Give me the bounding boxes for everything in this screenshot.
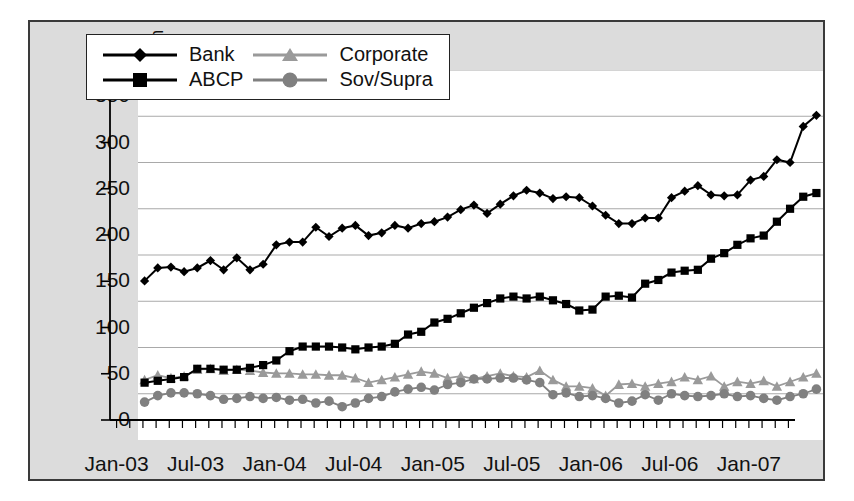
series-sov-supra <box>140 373 821 411</box>
data-point <box>667 268 675 276</box>
data-point <box>430 318 438 326</box>
y-tick-label: 250 <box>70 177 130 198</box>
data-point <box>193 365 201 373</box>
data-point <box>654 276 662 284</box>
data-point <box>562 300 570 308</box>
data-point <box>417 219 426 228</box>
data-point <box>562 192 571 201</box>
data-point <box>812 189 820 197</box>
data-point <box>285 347 293 355</box>
data-point <box>338 343 346 351</box>
data-point <box>443 212 452 221</box>
data-point <box>680 187 689 196</box>
x-tick-label: Jan-07 <box>699 452 799 476</box>
data-point <box>733 241 741 249</box>
legend-row: ABCP Sov/Supra <box>97 67 437 92</box>
data-point <box>667 389 677 399</box>
data-point <box>720 191 729 200</box>
data-point <box>561 388 571 398</box>
data-point <box>575 306 583 314</box>
chart-page: Outstandings USD million 050100150200250… <box>0 0 854 501</box>
data-point <box>193 263 202 272</box>
data-point <box>523 294 531 302</box>
x-axis-tick-labels: Jan-03Jul-03Jan-04Jul-04Jan-05Jul-05Jan-… <box>30 452 827 492</box>
data-point <box>759 376 769 386</box>
data-point <box>482 374 492 384</box>
data-point <box>324 396 334 406</box>
data-point <box>614 219 623 228</box>
data-point <box>443 380 453 390</box>
legend-label-bank: Bank <box>183 42 247 67</box>
data-point <box>430 385 440 395</box>
data-point <box>627 219 636 228</box>
data-point <box>180 267 189 276</box>
data-point <box>535 378 545 388</box>
data-point <box>588 391 598 401</box>
data-point <box>706 391 716 401</box>
data-point <box>325 342 333 350</box>
data-point <box>483 299 491 307</box>
data-point <box>311 398 321 408</box>
data-point <box>272 393 282 403</box>
data-point <box>654 395 664 405</box>
series-bank <box>140 111 821 286</box>
data-point <box>785 158 794 167</box>
data-point <box>456 205 465 214</box>
data-point <box>509 191 518 200</box>
data-point <box>180 373 188 381</box>
data-point <box>206 365 214 373</box>
data-point <box>351 398 361 408</box>
data-point <box>457 309 465 317</box>
data-point <box>641 280 649 288</box>
data-point <box>220 366 228 374</box>
data-point <box>799 193 807 201</box>
data-point <box>773 218 781 226</box>
y-tick-label: 0 <box>70 408 130 429</box>
chart-legend: Bank Corporate <box>86 34 450 100</box>
data-point <box>153 391 163 401</box>
data-point <box>378 342 386 350</box>
data-point <box>404 330 412 338</box>
series-line <box>145 193 817 383</box>
series-abcp <box>140 189 820 387</box>
plot-area <box>138 70 823 440</box>
y-tick-label: 300 <box>70 131 130 152</box>
data-point <box>298 395 308 405</box>
data-point <box>272 356 280 364</box>
chart-frame: Outstandings USD million 050100150200250… <box>28 20 825 481</box>
data-point <box>640 390 650 400</box>
data-point <box>549 296 557 304</box>
data-point <box>535 188 544 197</box>
data-point <box>509 293 517 301</box>
data-point <box>403 224 412 233</box>
data-point <box>548 375 558 385</box>
data-point <box>693 392 703 402</box>
data-point <box>720 249 728 257</box>
y-tick-label: 150 <box>70 269 130 290</box>
data-point <box>258 394 268 404</box>
data-point <box>680 391 690 401</box>
data-point <box>179 388 189 398</box>
data-point <box>548 390 558 400</box>
data-point <box>707 255 715 263</box>
data-point <box>627 396 637 406</box>
legend-swatch-bank <box>97 42 183 67</box>
legend-swatch-sovsupra <box>247 67 333 92</box>
data-point <box>681 267 689 275</box>
y-tick-label: 50 <box>70 362 130 383</box>
data-point <box>299 342 307 350</box>
data-point <box>798 389 808 399</box>
data-point <box>232 394 242 404</box>
data-point <box>337 402 347 412</box>
data-point <box>140 379 148 387</box>
data-point <box>233 366 241 374</box>
data-point <box>628 293 636 301</box>
data-point <box>746 234 754 242</box>
data-point <box>495 373 505 383</box>
legend-table: Bank Corporate <box>97 42 437 92</box>
data-point <box>443 315 451 323</box>
data-point <box>574 392 584 402</box>
data-point <box>312 342 320 350</box>
data-point <box>166 388 176 398</box>
plot-svg <box>138 70 823 440</box>
